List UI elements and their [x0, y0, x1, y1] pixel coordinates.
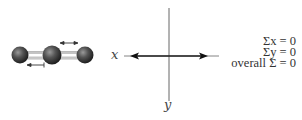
atom-center — [43, 46, 62, 65]
y-axis-label: y — [164, 97, 171, 112]
x-axis-label: x — [111, 47, 118, 62]
displacement-arrow-bottom — [27, 63, 44, 68]
equation-overall-sum: overall Σ = 0 — [231, 58, 296, 69]
atom-right — [77, 47, 94, 64]
atom-left — [12, 47, 29, 64]
x-axis-double-arrow — [124, 53, 219, 60]
displacement-arrow-top — [60, 42, 78, 45]
